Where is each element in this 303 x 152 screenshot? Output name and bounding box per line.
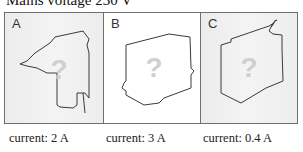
box-with-cord-outline-icon: ? (201, 13, 298, 123)
panel-b: B ? (103, 13, 200, 123)
diagram-title: Mains voltage 230 V (6, 0, 132, 9)
question-mark-icon: ? (145, 52, 162, 83)
question-mark-icon: ? (50, 54, 67, 85)
panel-c: C ? (200, 13, 297, 123)
captions-row: current: 2 A current: 3 A current: 0.4 A (0, 131, 303, 147)
box-outline-icon: ? (104, 13, 201, 123)
caption-b: current: 3 A (106, 131, 166, 146)
question-mark-icon: ? (240, 52, 257, 83)
caption-c: current: 0.4 A (203, 131, 272, 146)
panel-a: A ? (5, 13, 103, 123)
drill-outline-icon: ? (5, 13, 103, 123)
panel-row: A ? B ? C ? (4, 12, 298, 124)
caption-a: current: 2 A (9, 131, 69, 146)
